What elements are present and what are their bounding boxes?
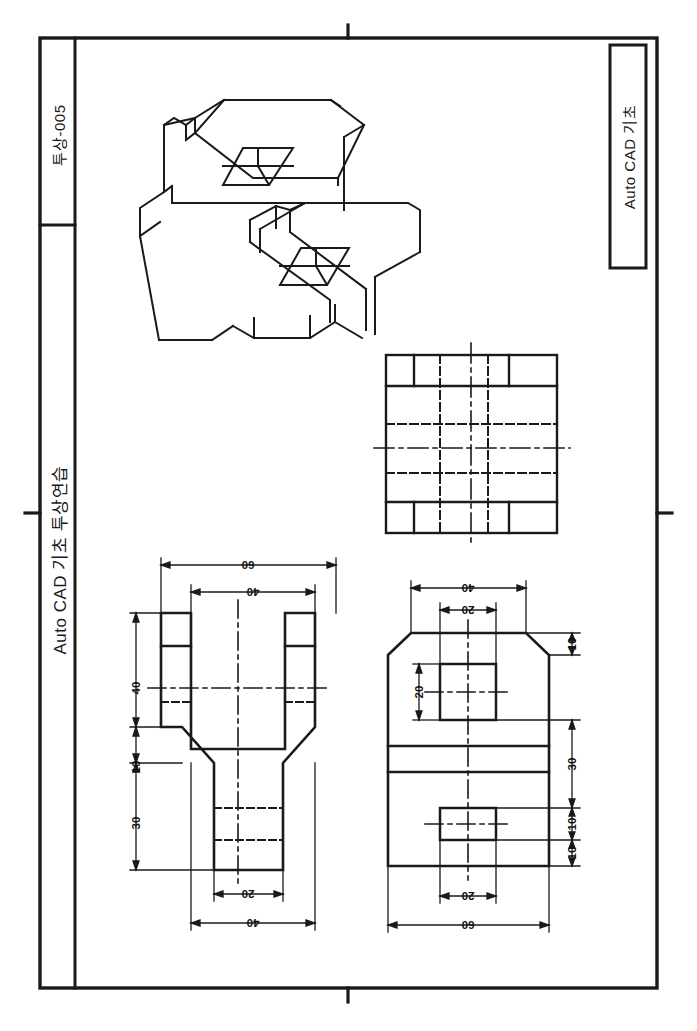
- dim-front-bottom-width: 40: [247, 917, 260, 929]
- drawing-canvas: [0, 0, 697, 1031]
- top-orthographic-view: [374, 343, 570, 546]
- dim-side-bottom-20: 20: [462, 890, 475, 902]
- dim-front-overall-width: 60: [242, 559, 255, 571]
- dim-front-height-30: 30: [130, 817, 142, 830]
- isometric-pictorial-view: [140, 100, 420, 340]
- dim-side-band-30: 30: [566, 758, 578, 771]
- dim-front-height-10: 10: [130, 761, 142, 774]
- title-block-left-main-label: Auto CAD 기초 투상연습: [46, 465, 71, 654]
- title-block-right-title: Auto CAD 기초: [618, 105, 639, 209]
- drawing-frame: [40, 38, 657, 988]
- dim-front-neck-width: 20: [242, 888, 255, 900]
- dim-side-top-40: 40: [462, 582, 475, 594]
- dim-side-hole-10: 10: [566, 818, 578, 831]
- dim-side-chamfer-10: 10: [566, 638, 578, 651]
- dim-side-top-20: 20: [462, 604, 475, 616]
- title-block-left-code: 투상-005: [48, 104, 69, 165]
- front-orthographic-view: [148, 600, 330, 885]
- dim-side-hole-20: 20: [413, 686, 425, 699]
- side-orthographic-view: [388, 620, 549, 880]
- dim-front-height-40: 40: [130, 682, 142, 695]
- drawing-sheet: 투상-005 Auto CAD 기초 투상연습 Auto CAD 기초 60 4…: [0, 0, 697, 1031]
- dim-side-bottom-60: 60: [462, 919, 475, 931]
- dim-front-inner-width: 40: [247, 586, 260, 598]
- dim-side-edge-10: 10: [566, 847, 578, 860]
